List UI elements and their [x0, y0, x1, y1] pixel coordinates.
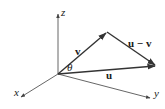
angle-theta-label: θ: [67, 61, 73, 73]
x-axis: [21, 74, 58, 97]
vector-v: [58, 33, 106, 74]
vector-diagram: z x y v u u − v θ: [0, 0, 165, 109]
vector-u-label: u: [106, 69, 112, 81]
y-axis-label: y: [153, 87, 159, 99]
z-axis-label: z: [60, 6, 66, 18]
y-axis: [58, 74, 150, 98]
vector-v-label: v: [75, 45, 81, 57]
x-axis-label: x: [13, 86, 19, 98]
vector-u-minus-v-label: u − v: [128, 37, 152, 49]
